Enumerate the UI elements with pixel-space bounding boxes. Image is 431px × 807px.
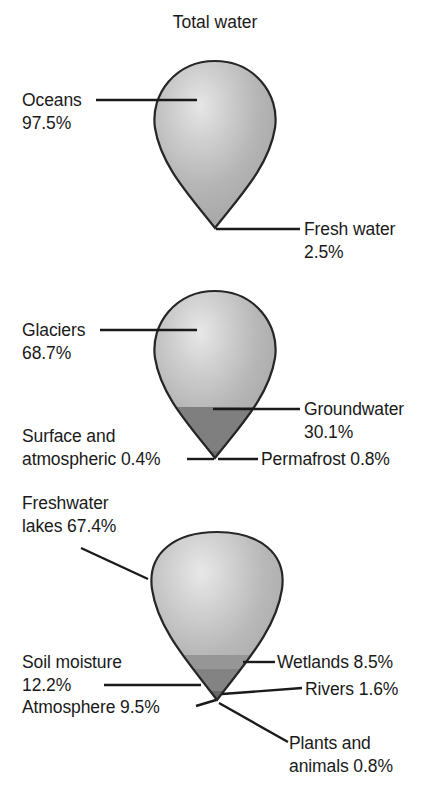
label-freshwater-lakes-line2: lakes 67.4%	[22, 514, 116, 538]
label-oceans: Oceans	[22, 88, 82, 112]
label-soil-moisture: Soil moisture	[22, 650, 122, 674]
label-soil-moisture-value: 12.2%	[22, 673, 71, 697]
label-rivers: Rivers 1.6%	[305, 677, 398, 701]
figure-title: Total water	[150, 11, 280, 33]
label-plants-animals-line2: animals 0.8%	[289, 754, 393, 778]
label-surface-atmospheric-line1: Surface and	[22, 424, 115, 448]
drop-total-water	[154, 61, 275, 228]
label-freshwater-lakes-line1: Freshwater	[22, 491, 109, 515]
label-permafrost: Permafrost 0.8%	[261, 447, 390, 471]
label-glaciers: Glaciers	[22, 318, 85, 342]
label-groundwater: Groundwater	[304, 397, 404, 421]
leader-line-plants-animals	[219, 703, 288, 742]
label-atmosphere: Atmosphere 9.5%	[22, 695, 160, 719]
leader-line-freshwater-lakes	[81, 548, 148, 579]
drop-fresh-water	[140, 291, 300, 461]
drop-surface-atmospheric	[135, 532, 305, 704]
label-surface-atmospheric-line2: atmospheric 0.4%	[22, 447, 160, 471]
label-glaciers-value: 68.7%	[22, 341, 71, 365]
leader-line-atmosphere	[196, 700, 216, 706]
label-wetlands: Wetlands 8.5%	[277, 650, 393, 674]
label-oceans-value: 97.5%	[22, 111, 71, 135]
drop-1-body	[154, 61, 275, 228]
label-fresh-water-value: 2.5%	[304, 240, 344, 264]
label-fresh-water: Fresh water	[304, 217, 395, 241]
segment-groundwater	[140, 407, 300, 451]
label-groundwater-value: 30.1%	[304, 420, 353, 444]
leader-line-rivers	[222, 688, 302, 694]
label-plants-animals-line1: Plants and	[289, 731, 371, 755]
